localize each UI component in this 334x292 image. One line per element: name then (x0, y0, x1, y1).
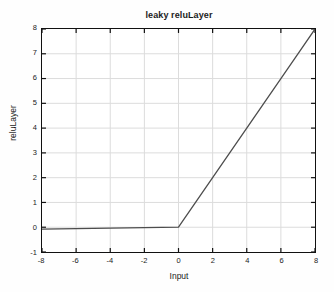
y-tick-label: 0 (15, 224, 37, 232)
x-tick-label: -4 (98, 257, 122, 265)
x-tick-label: -6 (63, 257, 87, 265)
y-tick-label: 2 (15, 174, 37, 182)
x-tick-label: 2 (201, 257, 225, 265)
x-tick-label: -2 (132, 257, 156, 265)
y-tick-label: 4 (15, 124, 37, 132)
x-tick-label: 4 (235, 257, 259, 265)
chart-title: leaky reluLayer (41, 9, 317, 21)
x-tick-label: -8 (29, 257, 53, 265)
x-tick-label: 0 (167, 257, 191, 265)
y-tick-label: -1 (15, 249, 37, 257)
y-tick-label: 3 (15, 149, 37, 157)
y-tick-label: 8 (15, 24, 37, 32)
y-axis-title: reluLayer (8, 88, 18, 158)
y-tick-label: 7 (15, 49, 37, 57)
plot-area (41, 28, 316, 253)
y-tick-label: 1 (15, 199, 37, 207)
y-tick-label: 6 (15, 74, 37, 82)
x-tick-label: 8 (304, 257, 328, 265)
x-tick-label: 6 (270, 257, 294, 265)
y-tick-label: 5 (15, 99, 37, 107)
figure-canvas: leaky reluLayer -8-6-4-202468 -101234567… (0, 0, 334, 292)
data-series-line (42, 29, 315, 252)
x-axis-title: Input (41, 271, 317, 281)
